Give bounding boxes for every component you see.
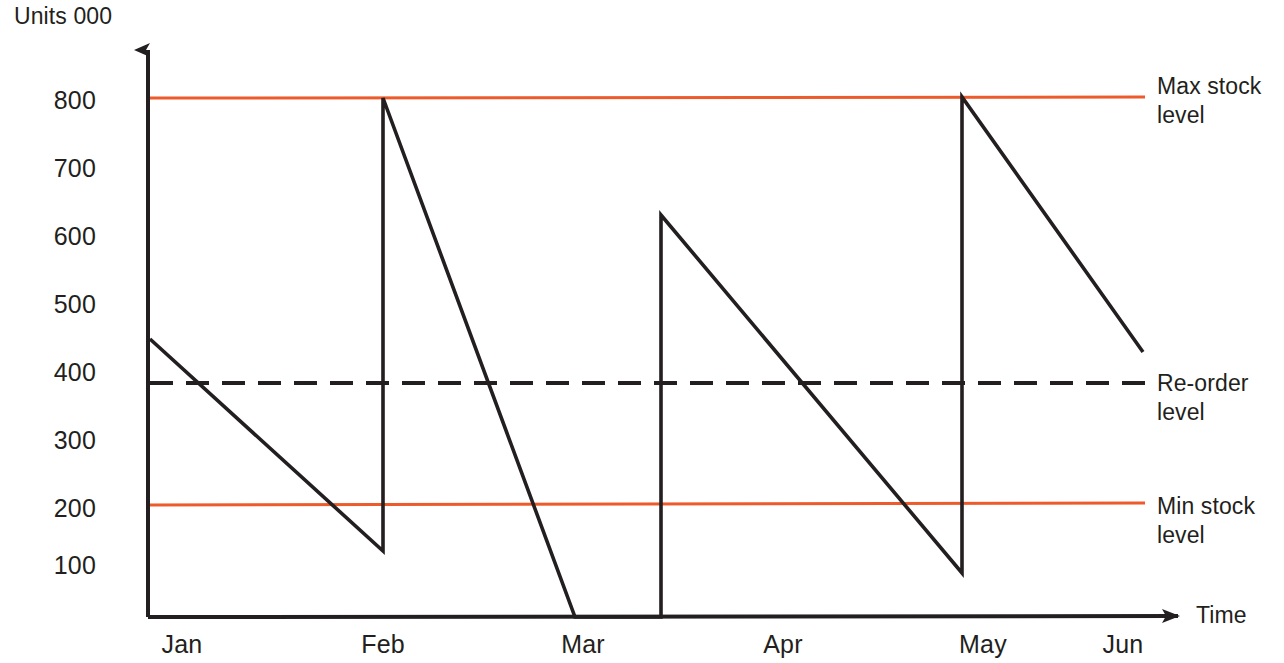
y-tick-label: 200 [18, 494, 96, 523]
x-tick-label-apr: Apr [723, 630, 843, 659]
y-tick-label: 400 [18, 358, 96, 387]
x-tick-label-jun: Jun [1063, 630, 1183, 659]
stock-level-series [150, 97, 1143, 617]
y-tick-label: 500 [18, 290, 96, 319]
max-stock-level-label-line2: level [1157, 102, 1205, 128]
x-tick-label-mar: Mar [523, 630, 643, 659]
y-tick-label: 300 [18, 426, 96, 455]
x-tick-label-jan: Jan [122, 630, 242, 659]
x-axis-line [148, 616, 1178, 617]
max-stock-level-label-line1: Max stock [1157, 73, 1261, 99]
y-tick-label: 600 [18, 222, 96, 251]
y-tick-label: 100 [18, 551, 96, 580]
y-tick-label: 700 [18, 154, 96, 183]
min-stock-level-label-line2: level [1157, 522, 1205, 548]
chart-canvas [0, 0, 1284, 663]
min-stock-level-label: Min stocklevel [1157, 492, 1284, 550]
re-order-level-label-line2: level [1157, 399, 1205, 425]
x-tick-label-may: May [923, 630, 1043, 659]
x-axis-title: Time [1196, 602, 1247, 629]
y-axis-title: Units 000 [14, 3, 112, 30]
min-stock-level-label-line1: Min stock [1157, 493, 1255, 519]
y-tick-label: 800 [18, 86, 96, 115]
stock-control-chart: Units 000 Time 800 700 600 500 400 300 2… [0, 0, 1284, 663]
max-stock-level-label: Max stocklevel [1157, 72, 1284, 130]
x-tick-label-feb: Feb [323, 630, 443, 659]
max-stock-level-line [148, 97, 1145, 98]
re-order-level-label-line1: Re-order [1157, 370, 1249, 396]
min-stock-level-line [148, 503, 1145, 505]
re-order-level-label: Re-orderlevel [1157, 369, 1284, 427]
